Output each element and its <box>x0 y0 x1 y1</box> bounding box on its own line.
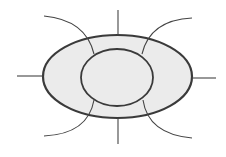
nested-ellipse-diagram <box>0 0 226 157</box>
inner-ellipse <box>81 49 153 106</box>
